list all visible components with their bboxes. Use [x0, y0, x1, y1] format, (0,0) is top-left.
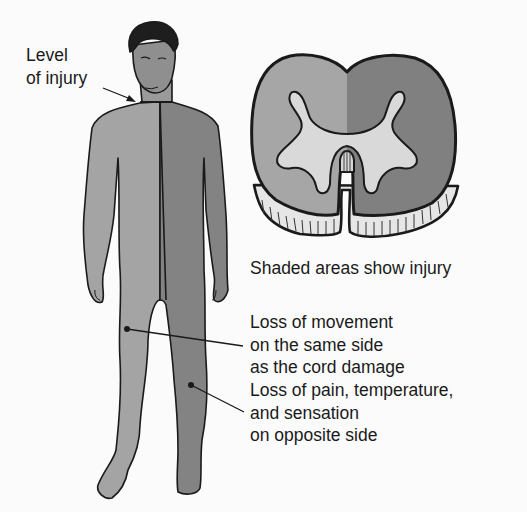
- brown-sequard-diagram: Level of injury Shaded areas show injury…: [0, 0, 527, 512]
- human-figure: [83, 22, 228, 499]
- face: [133, 40, 175, 93]
- body-right-half: [160, 102, 228, 494]
- shaded-areas-caption: Shaded areas show injury: [250, 257, 451, 280]
- same-side-callout: Loss of movement on the same side as the…: [250, 311, 405, 379]
- spinal-cord-cross-section: [252, 55, 458, 237]
- opposite-side-callout: Loss of pain, temperature, and sensation…: [250, 379, 453, 447]
- level-of-injury-arrow: [103, 88, 136, 102]
- body-left-half: [83, 102, 160, 498]
- level-of-injury-label: Level of injury: [26, 44, 87, 89]
